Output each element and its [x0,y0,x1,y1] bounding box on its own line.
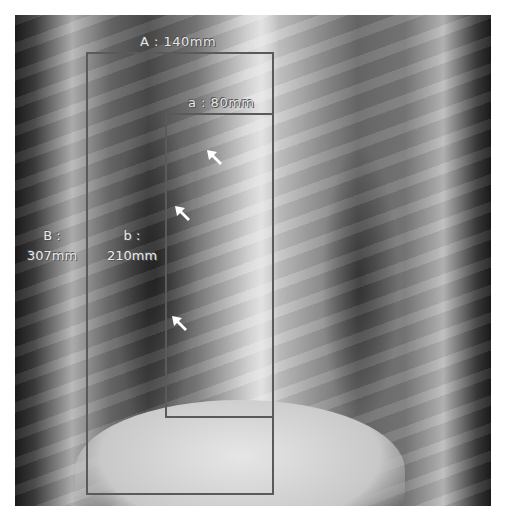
label-height-b-line1: b : [104,226,160,246]
label-width-A: A : 140mm [140,34,216,49]
label-height-B-line1: B : [24,226,80,246]
label-width-a: a : 80mm [188,95,254,110]
arrow-icon [205,148,225,168]
label-height-b: b : 210mm [104,226,160,266]
arrow-icon [170,314,190,334]
label-height-B: B : 307mm [24,226,80,266]
label-height-b-line2: 210mm [104,246,160,266]
arrow-icon [173,204,193,224]
label-height-B-line2: 307mm [24,246,80,266]
